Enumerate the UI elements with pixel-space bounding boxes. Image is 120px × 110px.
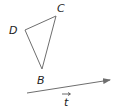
triangle-bcd: [25, 16, 56, 69]
label-b: B: [37, 74, 45, 87]
label-d: D: [9, 24, 17, 37]
label-t: t: [64, 96, 69, 109]
diagram-canvas: D C B t: [0, 0, 120, 110]
label-c: C: [57, 2, 65, 15]
